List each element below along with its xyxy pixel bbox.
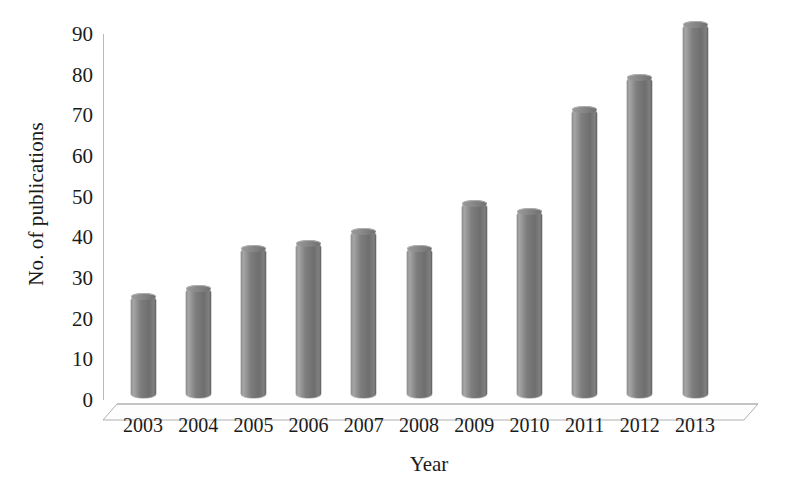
- bar: [462, 203, 487, 398]
- y-tick-label: 10: [72, 349, 93, 370]
- bar-top-cap: [407, 245, 432, 252]
- bar: [351, 231, 376, 398]
- y-tick-label: 60: [72, 146, 93, 167]
- x-tick-label: 2013: [665, 414, 725, 437]
- x-tick-label: 2008: [389, 414, 449, 437]
- bar-top-cap: [572, 106, 597, 113]
- bar: [131, 296, 156, 398]
- bar: [517, 211, 542, 398]
- x-tick-label: 2011: [555, 414, 615, 437]
- x-tick-label: 2003: [113, 414, 173, 437]
- x-tick-label: 2012: [610, 414, 670, 437]
- bar: [683, 24, 708, 398]
- bar: [407, 248, 432, 398]
- y-tick-label: 70: [72, 105, 93, 126]
- bar-series: [103, 20, 763, 410]
- y-tick-label: 0: [83, 390, 94, 411]
- y-tick-label: 50: [72, 186, 93, 207]
- bar: [186, 288, 211, 398]
- bar-chart: No. of publications 0102030405060708090 …: [0, 0, 806, 503]
- bar-top-cap: [241, 245, 266, 252]
- bar-top-cap: [296, 240, 321, 247]
- bar: [241, 248, 266, 398]
- x-tick-label: 2005: [223, 414, 283, 437]
- y-tick-label: 40: [72, 227, 93, 248]
- bar-top-cap: [517, 208, 542, 215]
- x-tick-label: 2010: [499, 414, 559, 437]
- y-tick-label: 90: [72, 24, 93, 45]
- x-tick-label: 2004: [168, 414, 228, 437]
- x-tick-label: 2009: [444, 414, 504, 437]
- bar: [296, 243, 321, 398]
- x-axis-title: Year: [103, 452, 755, 477]
- y-tick-label: 30: [72, 268, 93, 289]
- bar-top-cap: [351, 228, 376, 235]
- bar: [572, 109, 597, 398]
- bar-top-cap: [627, 74, 652, 81]
- y-tick-label: 20: [72, 308, 93, 329]
- y-tick-label: 80: [72, 64, 93, 85]
- y-axis-title: No. of publications: [14, 4, 58, 404]
- bar: [627, 77, 652, 398]
- bar-top-cap: [131, 293, 156, 300]
- bar-top-cap: [462, 200, 487, 207]
- plot-area: 0102030405060708090 20032004200520062007…: [103, 20, 763, 410]
- bar-top-cap: [683, 21, 708, 28]
- bar-top-cap: [186, 285, 211, 292]
- x-tick-label: 2007: [334, 414, 394, 437]
- x-tick-label: 2006: [279, 414, 339, 437]
